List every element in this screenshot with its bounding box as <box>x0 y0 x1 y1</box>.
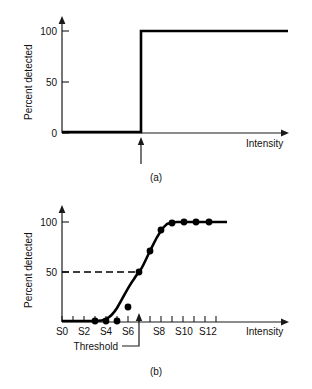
panel-a-caption: (a) <box>150 172 162 183</box>
panel-a-ytick-0: 0 <box>51 128 57 139</box>
panel-b-xtick-s8: S8 <box>153 326 166 337</box>
x-axis-arrowhead <box>281 319 289 326</box>
data-point <box>92 318 99 325</box>
data-point <box>114 318 121 325</box>
data-point <box>103 318 110 325</box>
panel-a-threshold-arrow <box>138 137 144 164</box>
panel-a-ytick-100: 100 <box>40 26 57 37</box>
data-point <box>136 269 143 276</box>
figure-container: 100 50 0 Percent detected Intensity (a) <box>0 0 312 389</box>
panel-b-ylabel: Percent detected <box>23 232 34 308</box>
panel-b-caption: (b) <box>150 366 162 377</box>
panel-b-xtick-s2: S2 <box>78 326 91 337</box>
panel-b-xtick-s0: S0 <box>56 326 69 337</box>
data-point <box>181 219 188 226</box>
y-axis-arrowhead <box>59 205 66 213</box>
panel-a-ytick-50: 50 <box>46 77 58 88</box>
panel-b-ytick-100: 100 <box>40 217 57 228</box>
panel-b-threshold-label: Threshold <box>74 341 118 352</box>
x-axis-arrowhead <box>281 130 289 137</box>
panel-a-y-axis <box>59 16 69 133</box>
panel-a-xlabel: Intensity <box>246 138 283 149</box>
panel-b-xtick-s12: S12 <box>199 326 217 337</box>
y-axis-arrowhead <box>59 16 66 24</box>
data-point <box>125 304 132 311</box>
panel-b-xtick-s4: S4 <box>100 326 113 337</box>
data-point <box>193 219 200 226</box>
panel-a-chart: 100 50 0 Percent detected Intensity (a) <box>0 0 312 195</box>
data-point <box>158 227 165 234</box>
panel-a-ylabel: Percent detected <box>23 44 34 120</box>
panel-b-chart: 100 50 Percent detected S0 S2 <box>0 195 312 389</box>
data-point <box>169 220 176 227</box>
panel-b-xtick-s10: S10 <box>175 326 193 337</box>
panel-b-xlabel: Intensity <box>246 326 283 337</box>
panel-b-ytick-50: 50 <box>46 267 58 278</box>
panel-a-step-curve <box>62 31 288 132</box>
panel-b-xtick-s6: S6 <box>122 326 135 337</box>
panel-b-y-axis <box>59 205 69 322</box>
data-point <box>206 219 213 226</box>
data-point <box>147 248 154 255</box>
